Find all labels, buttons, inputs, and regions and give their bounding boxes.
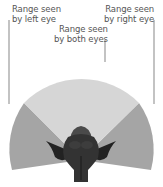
left-eye-label: Range seen by left eye bbox=[12, 4, 61, 24]
right-eye-label-line1: Range seen bbox=[104, 4, 154, 14]
right-eye-label-line2: by right eye bbox=[104, 14, 154, 24]
both-eyes-label-line2: by both eyes bbox=[54, 34, 108, 44]
left-eye-label-line1: Range seen bbox=[12, 4, 61, 14]
left-eye-label-line2: by left eye bbox=[12, 14, 61, 24]
both-eyes-label-line1: Range seen bbox=[54, 24, 108, 34]
right-eye-label: Range seen by right eye bbox=[104, 4, 154, 24]
both-eyes-label: Range seen by both eyes bbox=[54, 24, 108, 44]
